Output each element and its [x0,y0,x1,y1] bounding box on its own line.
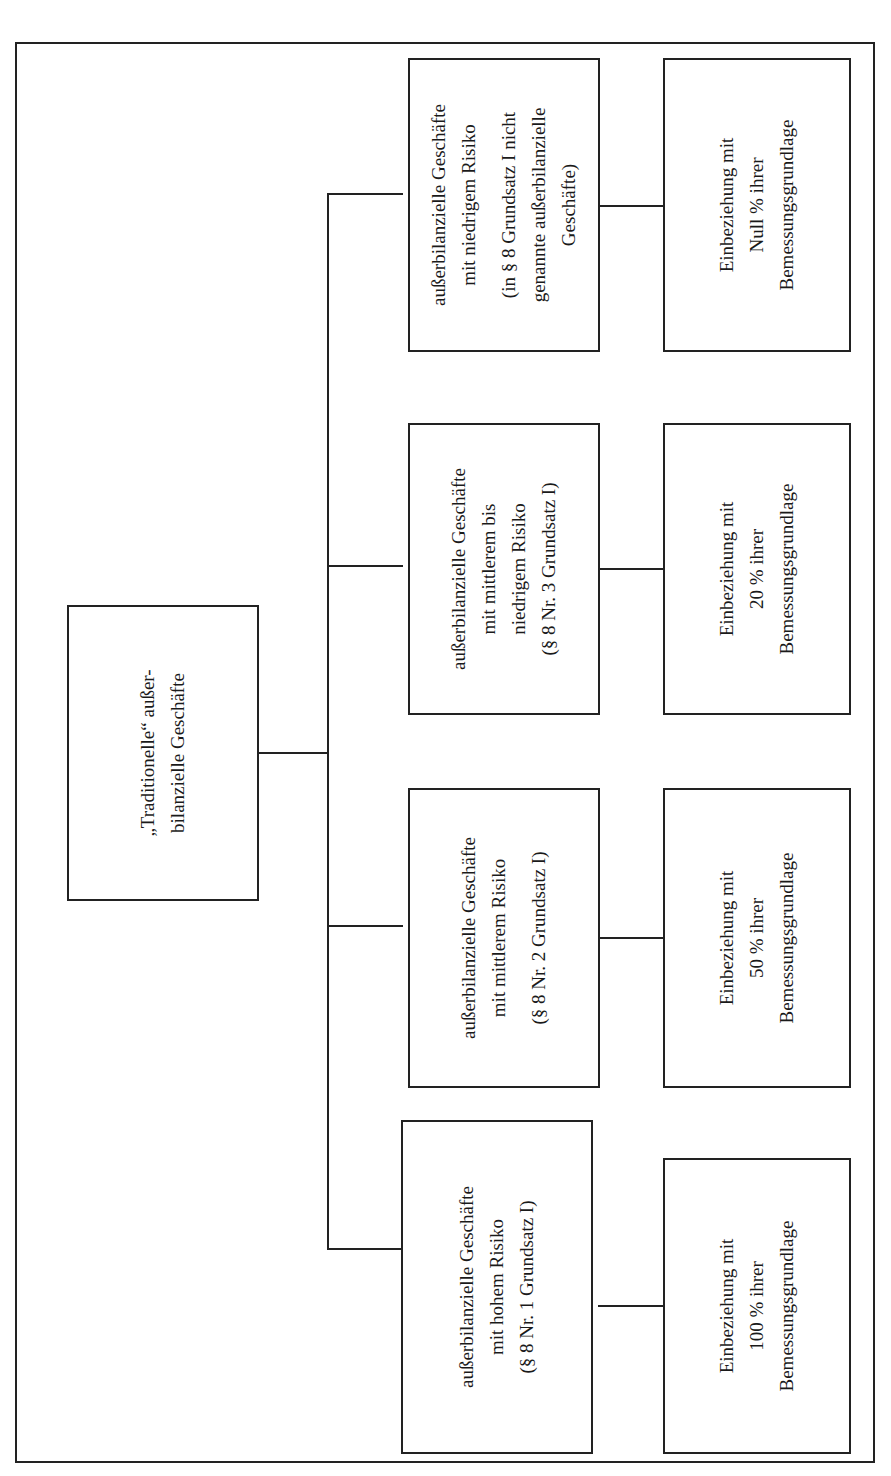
root-label: „Traditionelle“ außer- bilanzielle Gesch… [133,669,193,836]
category-label: außerbilanzielle Geschäfte mit mittlerem… [444,468,564,670]
category-node-medium-risk: außerbilanzielle Geschäfte mit mittlerem… [408,788,600,1088]
result-connector-1 [598,205,665,207]
result-node-20-percent: Einbeziehung mit 20 % ihrer Bemessungsgr… [663,423,851,715]
result-node-50-percent: Einbeziehung mit 50 % ihrer Bemessungsgr… [663,788,851,1088]
branch-connector-2 [327,565,403,567]
root-connector [257,752,329,754]
result-connector-3 [598,937,665,939]
branch-connector-1 [327,193,403,195]
result-connector-4 [598,1305,665,1307]
result-label: Einbeziehung mit 50 % ihrer Bemessungsgr… [712,853,802,1024]
category-node-low-risk: außerbilanzielle Geschäfte mit niedrigem… [408,58,600,352]
result-node-0-percent: Einbeziehung mit Null % ihrer Bemessungs… [663,58,851,352]
result-label: Einbeziehung mit Null % ihrer Bemessungs… [712,120,802,291]
category-label: außerbilanzielle Geschäfte mit niedrigem… [424,104,584,306]
result-label: Einbeziehung mit 100 % ihrer Bemessungsg… [712,1221,802,1392]
category-node-high-risk: außerbilanzielle Geschäfte mit hohem Ris… [401,1120,593,1454]
category-label: außerbilanzielle Geschäfte mit hohem Ris… [452,1186,542,1388]
category-node-medium-low-risk: außerbilanzielle Geschäfte mit mittlerem… [408,423,600,715]
branch-connector-4 [327,1248,403,1250]
trunk-line [327,193,329,1250]
result-label: Einbeziehung mit 20 % ihrer Bemessungsgr… [712,484,802,655]
result-node-100-percent: Einbeziehung mit 100 % ihrer Bemessungsg… [663,1158,851,1454]
category-label: außerbilanzielle Geschäfte mit mittlerem… [454,837,554,1039]
result-connector-2 [598,568,665,570]
branch-connector-3 [327,925,403,927]
root-node: „Traditionelle“ außer- bilanzielle Gesch… [67,605,259,901]
